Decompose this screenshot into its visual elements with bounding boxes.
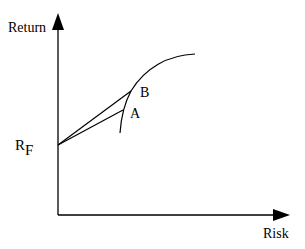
x-axis-arrow-icon [273, 209, 290, 221]
risk-free-label-subscript: F [25, 142, 33, 158]
risk-free-label: RF [15, 138, 33, 158]
line-rf-to-b [58, 91, 131, 145]
line-rf-to-a [58, 110, 123, 145]
risk-free-label-main: R [15, 137, 25, 153]
point-label-b: B [140, 86, 149, 100]
x-axis-label: Risk [263, 227, 289, 241]
diagram-canvas [0, 0, 305, 249]
point-label-a: A [130, 107, 140, 121]
y-axis-arrow-icon [52, 13, 64, 30]
y-axis-label: Return [8, 21, 46, 35]
efficient-frontier-curve [120, 54, 195, 133]
